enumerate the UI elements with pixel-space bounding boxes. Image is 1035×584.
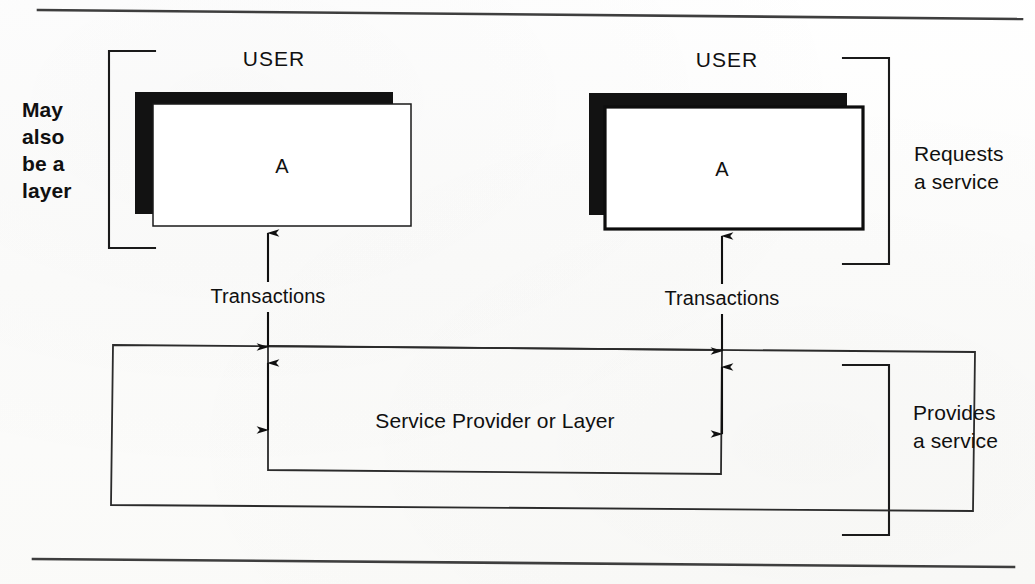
left-annotation-line-4: layer	[22, 179, 72, 203]
right-bottom-annotation-line-2: a service	[913, 429, 998, 453]
transactions-left-label: Transactions	[211, 285, 326, 308]
figure-root: May also be a layer USER A USER A Reques…	[0, 0, 1035, 584]
right-top-annotation-line-2: a service	[914, 170, 999, 194]
right-top-annotation-line-1: Requests	[914, 142, 1004, 166]
left-annotation-line-3: be a	[22, 152, 64, 176]
user-right-entity-label: A	[715, 158, 728, 181]
transactions-right-label: Transactions	[665, 287, 780, 310]
left-annotation-line-1: May	[22, 98, 63, 122]
user-left-entity-label: A	[275, 155, 288, 178]
top-rule	[38, 10, 1022, 19]
diagram-canvas	[0, 0, 1035, 584]
bottom-rule	[33, 559, 1014, 567]
user-right-title: USER	[696, 48, 759, 72]
user-right-card	[605, 107, 863, 229]
service-provider-label: Service Provider or Layer	[375, 409, 614, 433]
right-bottom-annotation-line-1: Provides	[913, 401, 996, 425]
user-left-title: USER	[243, 47, 306, 71]
left-annotation-line-2: also	[22, 125, 64, 149]
